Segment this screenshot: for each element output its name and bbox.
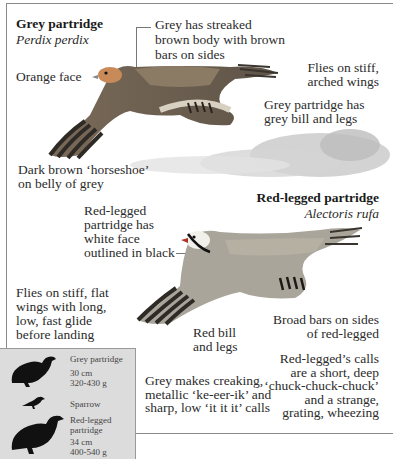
grey-partridge-silhouette-icon xyxy=(8,353,58,389)
size-grey-length: 30 cm xyxy=(70,368,92,378)
grey-title: Grey partridge xyxy=(16,17,103,31)
red-title: Red-legged partridge xyxy=(256,191,379,205)
grey-latin-name: Perdix perdix xyxy=(16,33,89,47)
red-flight-label: Flies on stiff, flat wings with long, lo… xyxy=(16,286,109,342)
red-calls-label: Red-legged’s calls are a short, deep ‘ch… xyxy=(264,352,379,420)
red-legged-partridge-silhouette-icon xyxy=(8,412,66,456)
size-comparison-box: Grey partridge 30 cm 320-430 g Sparrow R… xyxy=(0,348,136,459)
red-bars-label: Broad bars on sides of red-legged xyxy=(273,313,379,341)
size-red-weight: 400-540 g xyxy=(70,447,107,457)
red-bill-label: Red bill and legs xyxy=(193,326,238,354)
size-red-length: 34 cm xyxy=(70,437,92,447)
size-sparrow-name: Sparrow xyxy=(70,399,101,409)
leader-line xyxy=(136,27,151,28)
grey-belly-label: Dark brown ‘horseshoe’ on belly of grey xyxy=(18,163,149,191)
frame-top-rule xyxy=(6,3,393,4)
size-grey-name: Grey partridge xyxy=(70,354,123,364)
frame-bottom-rule xyxy=(135,433,393,434)
size-red-name: Red-legged partridge xyxy=(70,415,111,435)
grey-flight-label: Flies on stiff, arched wings xyxy=(307,61,379,89)
sparrow-silhouette-icon xyxy=(22,394,46,410)
cloud-illustration xyxy=(120,125,390,185)
frame-left-rule xyxy=(6,3,7,348)
grey-calls-label: Grey makes creaking, metallic ‘ke-eer-ik… xyxy=(145,374,271,415)
size-grey-weight: 320-430 g xyxy=(70,378,107,388)
